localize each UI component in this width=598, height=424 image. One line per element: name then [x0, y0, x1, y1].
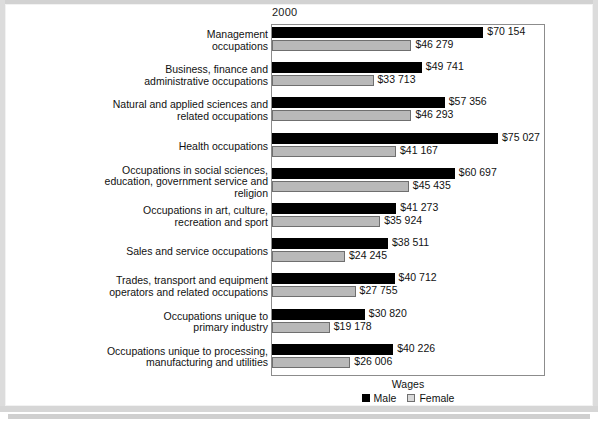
bar-group: $57 356$46 293 [272, 94, 544, 129]
bar-male[interactable] [272, 133, 498, 144]
chart-category-row: Occupations unique toprimary industry$30… [0, 306, 598, 341]
chart-category-row: Business, finance andadministrative occu… [0, 59, 598, 94]
chart-page: 2000 Managementoccupations$70 154$46 279… [0, 0, 598, 424]
bar-value-female: $46 293 [415, 109, 453, 120]
category-label-line: education, government service and [8, 176, 268, 188]
bar-female[interactable] [272, 216, 380, 227]
chart-legend: Male Female [271, 392, 545, 404]
bar-male[interactable] [272, 238, 388, 249]
bar-female[interactable] [272, 286, 356, 297]
category-label-line: religion [8, 188, 268, 200]
bar-female[interactable] [272, 110, 411, 121]
category-label: Occupations unique toprimary industry [8, 306, 268, 334]
bar-female[interactable] [272, 146, 396, 157]
legend-label-female: Female [419, 392, 454, 404]
bar-value-female: $27 755 [360, 285, 398, 296]
bar-value-male: $41 273 [400, 202, 438, 213]
bar-male[interactable] [272, 273, 395, 284]
bar-male[interactable] [272, 27, 483, 38]
bar-value-female: $45 435 [413, 180, 451, 191]
bar-male[interactable] [272, 203, 396, 214]
category-label: Managementoccupations [8, 24, 268, 52]
category-label-line: occupations [8, 41, 268, 53]
bar-group: $30 820$19 178 [272, 306, 544, 341]
bar-male[interactable] [272, 344, 393, 355]
bar-female[interactable] [272, 181, 409, 192]
bar-female[interactable] [272, 357, 350, 368]
bar-value-female: $46 279 [415, 39, 453, 50]
bar-value-male: $75 027 [502, 132, 540, 143]
chart-category-row: Health occupations$75 027$41 167 [0, 130, 598, 165]
bar-value-male: $49 741 [426, 61, 464, 72]
bar-value-male: $57 356 [449, 96, 487, 107]
bar-female[interactable] [272, 40, 411, 51]
bar-group: $60 697$45 435 [272, 165, 544, 200]
bar-group: $49 741$33 713 [272, 59, 544, 94]
category-label: Trades, transport and equipmentoperators… [8, 270, 268, 298]
category-label: Occupations in art, culture,recreation a… [8, 200, 268, 228]
bar-value-male: $38 511 [392, 237, 429, 248]
category-label: Occupations in social sciences,education… [8, 165, 268, 200]
bar-group: $40 712$27 755 [272, 270, 544, 305]
bar-group: $40 226$26 006 [272, 341, 544, 376]
bar-value-female: $24 245 [349, 250, 387, 261]
category-label-line: related occupations [8, 111, 268, 123]
bar-value-male: $40 226 [397, 343, 435, 354]
bar-male[interactable] [272, 62, 422, 73]
category-label-line: manufacturing and utilities [8, 357, 268, 369]
category-label: Natural and applied sciences andrelated … [8, 94, 268, 122]
bar-value-female: $33 713 [378, 74, 416, 85]
category-label-line: administrative occupations [8, 76, 268, 88]
category-label-line: recreation and sport [8, 217, 268, 229]
bar-male[interactable] [272, 97, 445, 108]
page-frame-shadow [8, 414, 590, 419]
bar-male[interactable] [272, 168, 455, 179]
bar-female[interactable] [272, 322, 330, 333]
page-frame-bottom-edge [0, 406, 598, 412]
chart-category-row: Occupations in art, culture,recreation a… [0, 200, 598, 235]
category-label: Sales and service occupations [8, 235, 268, 258]
legend-swatch-male-icon [362, 394, 370, 402]
bar-value-female: $41 167 [400, 145, 438, 156]
bar-male[interactable] [272, 309, 365, 320]
category-label: Occupations unique to processing,manufac… [8, 341, 268, 369]
bar-group: $75 027$41 167 [272, 130, 544, 165]
bar-value-female: $35 924 [384, 215, 422, 226]
category-label-line: primary industry [8, 322, 268, 334]
category-label-line: Health occupations [8, 141, 268, 153]
chart-title: 2000 [272, 6, 297, 18]
category-label-line: Sales and service occupations [8, 246, 268, 258]
chart-category-row: Managementoccupations$70 154$46 279 [0, 24, 598, 59]
bar-value-female: $19 178 [334, 321, 372, 332]
bar-value-male: $70 154 [487, 26, 525, 37]
chart-category-row: Occupations unique to processing,manufac… [0, 341, 598, 376]
bar-value-female: $26 006 [354, 356, 392, 367]
category-label: Health occupations [8, 130, 268, 153]
chart-category-row: Occupations in social sciences,education… [0, 165, 598, 200]
legend-item-female[interactable]: Female [407, 392, 454, 404]
bar-value-male: $60 697 [459, 167, 497, 178]
legend-item-male[interactable]: Male [362, 392, 397, 404]
category-label-line: Management [8, 29, 268, 41]
chart-category-row: Natural and applied sciences andrelated … [0, 94, 598, 129]
bar-value-male: $40 712 [399, 272, 437, 283]
category-label-line: operators and related occupations [8, 287, 268, 299]
bar-group: $38 511$24 245 [272, 235, 544, 270]
bar-group: $70 154$46 279 [272, 24, 544, 59]
bar-female[interactable] [272, 75, 374, 86]
bar-group: $41 273$35 924 [272, 200, 544, 235]
x-axis-title: Wages [271, 378, 545, 390]
bar-value-male: $30 820 [369, 308, 407, 319]
legend-label-male: Male [374, 392, 397, 404]
category-label-line: Occupations in art, culture, [8, 205, 268, 217]
chart-category-row: Trades, transport and equipmentoperators… [0, 270, 598, 305]
chart-category-row: Sales and service occupations$38 511$24 … [0, 235, 598, 270]
category-label: Business, finance andadministrative occu… [8, 59, 268, 87]
bar-female[interactable] [272, 251, 345, 262]
legend-swatch-female-icon [407, 394, 415, 402]
